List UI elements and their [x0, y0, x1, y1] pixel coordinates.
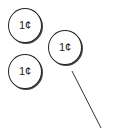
- pointer-line: [0, 0, 115, 128]
- coin-diagram: 1¢ 1¢ 1¢: [0, 0, 115, 128]
